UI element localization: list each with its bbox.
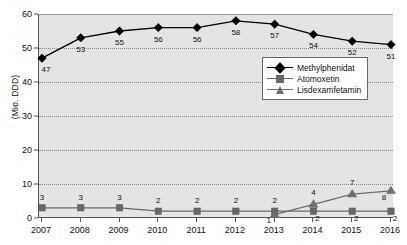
x-tick-mark — [351, 218, 352, 222]
data-point-label: 52 — [348, 48, 357, 57]
plot-inner: 4753555656585754525133322222221478 — [39, 14, 393, 217]
data-point-label: 7 — [350, 178, 354, 187]
y-tick-label: 30 — [6, 111, 32, 121]
data-point-label: 3 — [79, 193, 83, 202]
data-point-label: 47 — [42, 65, 51, 74]
y-axis-title: (Mio. DDD) — [10, 52, 20, 142]
data-point-marker — [194, 208, 200, 214]
data-point-label: 53 — [76, 45, 85, 54]
series-line — [42, 21, 391, 58]
data-point-marker — [155, 208, 161, 214]
y-tick-mark — [34, 150, 38, 151]
y-tick-label: 20 — [6, 145, 32, 155]
x-tick-mark — [196, 218, 197, 222]
y-tick-label: 10 — [6, 179, 32, 189]
y-tick-label: 60 — [6, 9, 32, 19]
data-point-label: 54 — [309, 41, 318, 50]
y-tick-mark — [34, 82, 38, 83]
x-tick-mark — [80, 218, 81, 222]
x-tick-label: 2013 — [252, 225, 296, 235]
data-point-marker — [39, 205, 45, 211]
data-point-label: 58 — [231, 28, 240, 37]
x-tick-mark — [157, 218, 158, 222]
data-point-marker — [115, 27, 123, 35]
legend-label: Methylphenidat — [297, 63, 355, 73]
line-chart: (Mio. DDD) 47535556565857545251333222222… — [0, 0, 407, 245]
data-point-label: 2 — [272, 196, 276, 205]
data-point-marker — [77, 34, 85, 42]
data-point-label: 3 — [40, 193, 44, 202]
data-point-marker — [387, 40, 395, 48]
data-point-marker — [309, 30, 317, 38]
data-point-marker — [348, 37, 356, 45]
data-point-marker — [78, 205, 84, 211]
y-tick-label: 40 — [6, 77, 32, 87]
data-point-marker — [386, 186, 395, 193]
x-tick-label: 2012 — [213, 225, 257, 235]
legend-label: Atomoxetin — [297, 74, 340, 84]
series-line — [42, 208, 391, 211]
legend-marker-square-icon — [267, 73, 293, 84]
data-point-label: 4 — [311, 188, 315, 197]
series-layer — [39, 14, 394, 218]
y-tick-label: 0 — [6, 213, 32, 223]
legend-marker-triangle-icon — [267, 84, 293, 95]
data-point-label: 55 — [115, 38, 124, 47]
data-point-marker — [154, 23, 162, 31]
data-point-label: 51 — [387, 52, 396, 61]
x-tick-label: 2007 — [19, 225, 63, 235]
y-tick-mark — [34, 14, 38, 15]
x-tick-label: 2011 — [174, 225, 218, 235]
legend-label: Lisdexamfetamin — [297, 85, 361, 95]
data-point-marker — [38, 54, 46, 62]
y-tick-mark — [34, 184, 38, 185]
x-tick-label: 2015 — [329, 225, 373, 235]
data-point-marker — [232, 17, 240, 25]
x-tick-mark — [390, 218, 391, 222]
data-point-label: 2 — [393, 214, 397, 223]
y-tick-label: 50 — [6, 43, 32, 53]
data-point-marker — [193, 23, 201, 31]
x-tick-label: 2008 — [58, 225, 102, 235]
y-tick-mark — [34, 116, 38, 117]
data-point-label: 2 — [315, 214, 319, 223]
legend-item-lisdexamfetamin: Lisdexamfetamin — [267, 84, 361, 95]
x-tick-mark — [274, 218, 275, 222]
data-point-label: 2 — [234, 196, 238, 205]
x-tick-mark — [312, 218, 313, 222]
y-tick-mark — [34, 218, 38, 219]
data-point-label: 1 — [266, 216, 270, 225]
data-point-marker — [233, 208, 239, 214]
data-point-marker — [116, 205, 122, 211]
data-point-label: 2 — [195, 196, 199, 205]
data-point-label: 2 — [156, 196, 160, 205]
data-point-label: 56 — [193, 35, 202, 44]
x-tick-label: 2014 — [290, 225, 334, 235]
x-tick-mark — [235, 218, 236, 222]
x-tick-mark — [119, 218, 120, 222]
y-tick-mark — [34, 48, 38, 49]
data-point-label: 3 — [117, 193, 121, 202]
x-tick-mark — [41, 218, 42, 222]
legend-marker-diamond-icon — [267, 62, 293, 73]
x-tick-label: 2009 — [97, 225, 141, 235]
data-point-marker — [270, 20, 278, 28]
chart-legend: Methylphenidat Atomoxetin Lisdexamfetami… — [262, 57, 368, 100]
x-tick-label: 2016 — [368, 225, 407, 235]
data-point-label: 2 — [354, 214, 358, 223]
data-point-label: 56 — [154, 35, 163, 44]
data-point-label: 8 — [382, 193, 386, 202]
data-point-label: 57 — [270, 31, 279, 40]
plot-area: 4753555656585754525133322222221478 — [38, 14, 393, 218]
legend-item-methylphenidat: Methylphenidat — [267, 62, 361, 73]
x-tick-label: 2010 — [135, 225, 179, 235]
legend-item-atomoxetin: Atomoxetin — [267, 73, 361, 84]
